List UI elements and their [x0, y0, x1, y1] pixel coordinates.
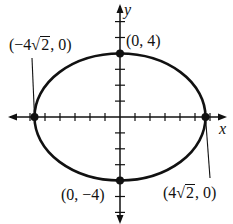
point-right-vertex	[202, 113, 210, 121]
sqrt-icon: √	[176, 185, 185, 201]
y-axis-down-arrow-icon	[117, 215, 124, 224]
label-right-radicand: 2	[185, 184, 195, 201]
leader-line-left	[32, 58, 35, 117]
x-axis-left-arrow-icon	[8, 114, 17, 121]
label-bottom-covertex: (0, −4)	[61, 187, 105, 203]
point-bottom-covertex	[116, 177, 124, 185]
label-left-vertex: (−4√2, 0)	[9, 36, 71, 53]
sqrt-icon: √	[31, 37, 40, 53]
x-axis-label: x	[219, 121, 226, 137]
point-left-vertex	[31, 113, 39, 121]
label-right-prefix: (4	[163, 184, 176, 201]
label-left-radicand: 2	[40, 36, 50, 53]
y-axis-up-arrow-icon	[117, 4, 124, 13]
label-left-prefix: (−4	[9, 36, 31, 53]
label-left-suffix: , 0)	[50, 36, 71, 53]
label-top-covertex: (0, 4)	[126, 33, 161, 49]
label-right-suffix: , 0)	[195, 184, 216, 201]
point-top-covertex	[116, 50, 124, 58]
y-axis-label: y	[124, 2, 131, 18]
label-right-vertex: (4√2, 0)	[163, 184, 216, 201]
leader-line-right	[206, 117, 211, 178]
